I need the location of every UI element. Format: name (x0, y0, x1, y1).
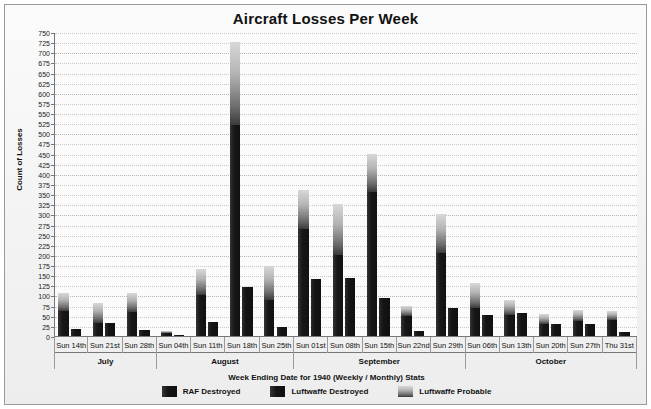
x-tick-label: Thu 31st (603, 337, 637, 353)
legend-label: Luftwaffe Destroyed (291, 387, 368, 396)
bar-raf (585, 324, 595, 336)
x-tick-label: Sun 21st (88, 337, 122, 353)
segment-raf-destroyed (517, 313, 527, 337)
segment-raf-destroyed (379, 298, 389, 337)
segment-raf-destroyed (619, 332, 629, 336)
x-tick-label: Sun 06th (466, 337, 500, 353)
bar-group (535, 33, 569, 336)
segment-luftwaffe-destroyed (504, 315, 514, 336)
segment-raf-destroyed (208, 322, 218, 336)
bar-group (192, 33, 226, 336)
legend-label: Luftwaffe Probable (419, 387, 491, 396)
segment-luftwaffe-probable (504, 300, 514, 315)
y-tick-label: 450 (38, 152, 50, 159)
segment-luftwaffe-probable (607, 311, 617, 320)
bar-group (569, 33, 603, 336)
bar-group (329, 33, 363, 336)
y-tick-label: 350 (38, 192, 50, 199)
legend-item[interactable]: Luftwaffe Probable (398, 386, 491, 397)
segment-raf-destroyed (139, 330, 149, 336)
bar-raf (619, 332, 629, 336)
bar-group (158, 33, 192, 336)
segment-raf-destroyed (448, 308, 458, 336)
month-label: August (157, 353, 294, 369)
y-tick-label: 100 (38, 293, 50, 300)
bar-luftwaffe (196, 269, 206, 336)
bar-luftwaffe (436, 214, 446, 336)
segment-luftwaffe-destroyed (196, 295, 206, 336)
y-tick-label: 625 (38, 81, 50, 88)
y-tick-label: 150 (38, 273, 50, 280)
segment-raf-destroyed (551, 324, 561, 336)
bar-raf (345, 278, 355, 336)
segment-luftwaffe-probable (230, 42, 240, 125)
segment-luftwaffe-destroyed (401, 316, 411, 336)
bar-luftwaffe (58, 293, 68, 336)
segment-luftwaffe-destroyed (436, 253, 446, 336)
y-tick-label: 275 (38, 223, 50, 230)
bar-luftwaffe (401, 306, 411, 336)
segment-luftwaffe-destroyed (367, 192, 377, 336)
legend-swatch-icon (270, 386, 285, 397)
y-tick-label: 0 (46, 334, 50, 341)
y-axis-ticks: 0255075100125150175200225250275300325350… (5, 33, 54, 337)
y-tick-label: 125 (38, 283, 50, 290)
bar-group (261, 33, 295, 336)
chart-root: Aircraft Losses Per Week Count of Losses… (0, 0, 651, 409)
x-tick-label: Sun 01st (294, 337, 328, 353)
legend-item[interactable]: RAF Destroyed (162, 386, 241, 397)
bar-raf (551, 324, 561, 336)
bar-raf (174, 335, 184, 336)
bar-raf (311, 279, 321, 336)
bar-luftwaffe (298, 190, 308, 336)
segment-luftwaffe-destroyed (539, 324, 549, 336)
y-tick-label: 750 (38, 30, 50, 37)
x-tick-label: Sun 27th (568, 337, 602, 353)
segment-raf-destroyed (482, 315, 492, 336)
bar-group (604, 33, 638, 336)
y-tick-label: 725 (38, 40, 50, 47)
segment-luftwaffe-probable (539, 314, 549, 324)
segment-luftwaffe-destroyed (161, 333, 171, 336)
y-tick-label: 500 (38, 131, 50, 138)
x-tick-label: Sun 14th (54, 337, 88, 353)
bar-group (398, 33, 432, 336)
bar-raf (277, 327, 287, 336)
y-tick-label: 475 (38, 141, 50, 148)
chart-title: Aircraft Losses Per Week (5, 10, 646, 27)
segment-luftwaffe-probable (196, 269, 206, 295)
x-tick-label: Sun 18th (225, 337, 259, 353)
segment-luftwaffe-destroyed (573, 321, 583, 336)
y-tick-label: 650 (38, 71, 50, 78)
x-tick-label: Sun 08th (328, 337, 362, 353)
y-tick-label: 375 (38, 182, 50, 189)
x-tick-label: Sun 11th (191, 337, 225, 353)
segment-luftwaffe-destroyed (264, 300, 274, 336)
bar-group (364, 33, 398, 336)
y-tick-label: 225 (38, 243, 50, 250)
segment-luftwaffe-destroyed (58, 311, 68, 336)
month-label: July (54, 353, 157, 369)
bar-group (501, 33, 535, 336)
legend-swatch-icon (398, 386, 413, 397)
y-tick-label: 525 (38, 121, 50, 128)
x-tick-label: Sun 13th (500, 337, 534, 353)
legend-item[interactable]: Luftwaffe Destroyed (270, 386, 368, 397)
bar-raf (105, 323, 115, 336)
bar-raf (482, 315, 492, 336)
segment-luftwaffe-destroyed (607, 320, 617, 336)
x-axis-title: Week Ending Date for 1940 (Weekly / Mont… (5, 373, 648, 382)
x-axis-date-labels: Sun 14thSun 21stSun 28thSun 04thSun 11th… (54, 337, 637, 353)
y-tick-label: 250 (38, 233, 50, 240)
bar-group (124, 33, 158, 336)
bar-raf (414, 331, 424, 336)
x-tick-label: Sun 15th (363, 337, 397, 353)
x-tick-label: Sun 22nd (397, 337, 431, 353)
segment-luftwaffe-probable (58, 293, 68, 311)
segment-raf-destroyed (105, 323, 115, 336)
x-tick-label: Sun 29th (431, 337, 465, 353)
bar-raf (139, 330, 149, 336)
bar-raf (208, 322, 218, 336)
bar-group (55, 33, 89, 336)
y-tick-label: 550 (38, 111, 50, 118)
